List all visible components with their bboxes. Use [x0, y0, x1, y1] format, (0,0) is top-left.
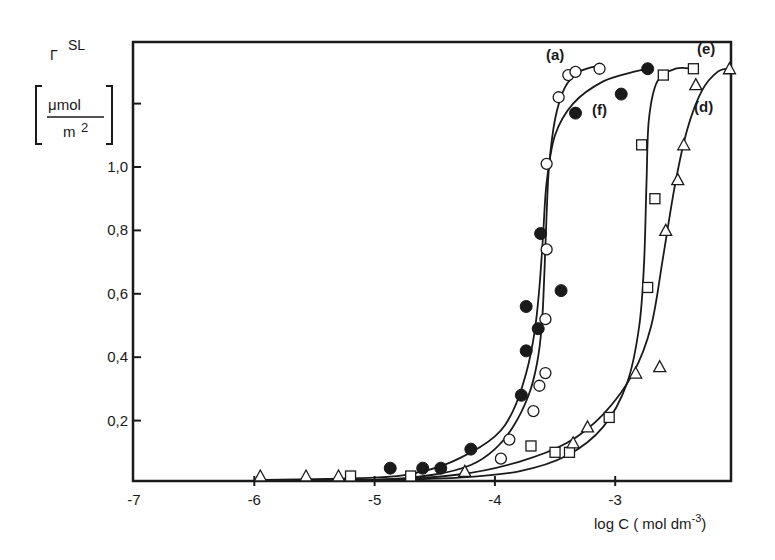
x-tick-label: -7	[127, 491, 140, 508]
x-tick-label: -4	[488, 491, 501, 508]
marker-open-circle-a	[495, 453, 506, 464]
marker-filled-circle-f	[535, 228, 547, 240]
marker-open-circle-a	[540, 368, 551, 379]
y-axis-unit-denominator-sup: 2	[81, 120, 88, 135]
y-axis-ticks: 0,20,40,60,81,0	[107, 104, 141, 429]
marker-filled-circle-f	[520, 345, 532, 357]
marker-open-triangle-d	[678, 139, 690, 150]
marker-open-square-e	[564, 447, 574, 457]
series-label-e: (e)	[697, 40, 715, 57]
y-axis-title: Γ SL μmol m 2	[36, 37, 112, 144]
y-tick-label: 1,0	[107, 158, 128, 175]
curve-e	[254, 68, 693, 480]
x-tick-label: -5	[368, 491, 381, 508]
marker-filled-circle-f	[520, 300, 532, 312]
y-axis-unit-numerator: μmol	[48, 96, 81, 113]
marker-open-circle-a	[594, 63, 605, 74]
marker-open-circle-a	[570, 66, 581, 77]
marker-open-triangle-d	[333, 470, 345, 481]
x-axis-title: log C ( mol dm-3)	[594, 512, 706, 532]
y-axis-unit-denominator: m	[63, 123, 76, 140]
marker-filled-circle-f	[515, 389, 527, 401]
marker-open-triangle-d	[300, 470, 312, 481]
y-axis-superscript: SL	[68, 37, 85, 53]
marker-filled-circle-f	[417, 462, 429, 474]
x-tick-label: -3	[609, 491, 622, 508]
marker-open-triangle-d	[254, 470, 266, 481]
marker-open-circle-a	[528, 406, 539, 417]
left-bracket	[36, 86, 42, 144]
marker-open-triangle-d	[672, 174, 684, 185]
marker-filled-circle-f	[555, 285, 567, 297]
marker-open-triangle-d	[459, 465, 471, 476]
marker-open-circle-a	[541, 158, 552, 169]
fitted-curves	[254, 66, 729, 481]
marker-open-square-e	[346, 471, 356, 481]
marker-open-triangle-d	[654, 361, 666, 372]
marker-open-triangle-d	[690, 79, 702, 90]
marker-open-circle-a	[504, 434, 515, 445]
plot-frame	[133, 42, 731, 481]
curve-a	[254, 66, 599, 481]
y-tick-label: 0,2	[107, 412, 128, 429]
y-tick-label: 0,6	[107, 285, 128, 302]
marker-filled-circle-f	[384, 462, 396, 474]
y-tick-label: 0,8	[107, 221, 128, 238]
marker-open-triangle-d	[660, 224, 672, 235]
marker-open-square-e	[650, 194, 660, 204]
right-bracket	[106, 86, 112, 144]
marker-open-square-e	[637, 140, 647, 150]
marker-filled-circle-f	[465, 443, 477, 455]
marker-filled-circle-f	[532, 323, 544, 335]
y-tick-label: 0,4	[107, 348, 128, 365]
marker-open-square-e	[688, 64, 698, 74]
chart: Γ SL μmol m 2 0,20,40,60,81,0 -7-6-5-4-3…	[0, 0, 775, 560]
marker-open-square-e	[643, 282, 653, 292]
marker-open-square-e	[406, 471, 416, 481]
y-axis-symbol: Γ	[50, 47, 58, 63]
marker-open-circle-a	[534, 380, 545, 391]
curve-d	[254, 69, 729, 481]
marker-open-square-e	[658, 70, 668, 80]
x-axis-title-main: log C ( mol dm	[594, 515, 692, 532]
marker-filled-circle-f	[642, 63, 654, 75]
curve-f	[254, 69, 647, 480]
marker-open-square-e	[526, 441, 536, 451]
x-tick-label: -6	[248, 491, 261, 508]
x-axis-title-sup: -3	[692, 512, 702, 524]
marker-open-square-e	[604, 412, 614, 422]
series-label-f: (f)	[592, 101, 607, 118]
x-axis-title-close: )	[701, 515, 706, 532]
marker-open-square-e	[550, 447, 560, 457]
marker-open-circle-a	[541, 244, 552, 255]
data-markers	[254, 63, 735, 481]
marker-filled-circle-f	[435, 462, 447, 474]
marker-filled-circle-f	[615, 88, 627, 100]
series-label-d: (d)	[694, 98, 713, 115]
marker-filled-circle-f	[570, 107, 582, 119]
marker-open-circle-a	[553, 92, 564, 103]
marker-open-circle-a	[540, 314, 551, 325]
series-label-a: (a)	[546, 46, 564, 63]
